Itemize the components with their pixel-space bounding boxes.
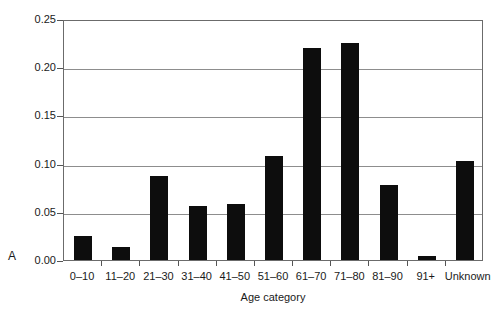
y-axis-tick-label: 0.05 xyxy=(22,207,56,218)
x-axis-tick-label: 51–60 xyxy=(254,270,292,283)
y-axis-title: Proportion of Patients xyxy=(0,0,18,56)
plot-area xyxy=(63,20,483,261)
x-axis-tick-mark xyxy=(254,261,255,266)
bar xyxy=(150,176,168,260)
x-axis-tick-mark xyxy=(330,261,331,266)
x-axis-tick-mark xyxy=(445,261,446,266)
x-axis-tick-label: 81–90 xyxy=(368,270,406,283)
x-axis-tick-mark xyxy=(101,261,102,266)
bar xyxy=(418,256,436,260)
y-axis-tick-label: 0.20 xyxy=(22,62,56,73)
gridline xyxy=(64,69,482,70)
y-axis-tick-label: 0.15 xyxy=(22,110,56,121)
x-axis-tick-label: 0–10 xyxy=(63,270,101,283)
y-axis-tick-labels: 0.000.050.100.150.200.25 xyxy=(22,0,56,317)
panel-label-a: A xyxy=(8,249,16,263)
bar xyxy=(74,236,92,260)
x-axis-tick-label: Unknown xyxy=(445,270,483,283)
bar xyxy=(112,247,130,260)
x-axis-tick-mark xyxy=(139,261,140,266)
y-axis-tick-label: 0.10 xyxy=(22,159,56,170)
x-axis-tick-label: 21–30 xyxy=(139,270,177,283)
bar xyxy=(341,43,359,260)
x-axis-tick-label: 71–80 xyxy=(330,270,368,283)
y-axis-tick-label: 0.25 xyxy=(22,14,56,25)
x-axis-tick-label: 41–50 xyxy=(216,270,254,283)
bar xyxy=(380,185,398,260)
y-axis-tick-mark xyxy=(57,261,63,262)
gridline xyxy=(64,117,482,118)
bar xyxy=(265,156,283,260)
bar xyxy=(303,48,321,260)
x-axis-tick-mark xyxy=(368,261,369,266)
bar xyxy=(189,206,207,260)
x-axis-tick-label: 91+ xyxy=(407,270,445,283)
x-axis-tick-label: 11–20 xyxy=(101,270,139,283)
bar xyxy=(227,204,245,260)
x-axis-tick-label: 61–70 xyxy=(292,270,330,283)
x-axis-tick-mark xyxy=(178,261,179,266)
y-axis-tick-label: 0.00 xyxy=(22,255,56,266)
x-axis-tick-mark xyxy=(407,261,408,266)
x-axis-tick-mark xyxy=(292,261,293,266)
x-axis-tick-mark xyxy=(216,261,217,266)
bar-chart-figure: Proportion of Patients A 0.000.050.100.1… xyxy=(0,0,504,317)
x-axis-tick-label: 31–40 xyxy=(178,270,216,283)
bar xyxy=(456,161,474,260)
x-axis-title: Age category xyxy=(63,291,483,303)
